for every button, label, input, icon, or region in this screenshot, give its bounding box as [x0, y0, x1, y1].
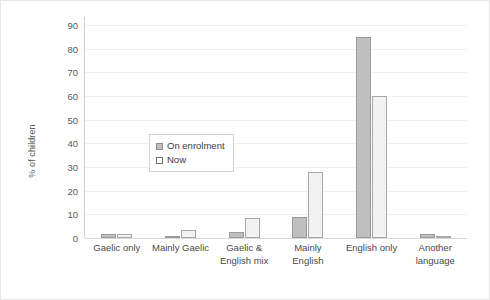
x-axis-tick-label: Gaelic &English mix [212, 242, 276, 267]
y-axis-tick-label: 30 [67, 162, 78, 173]
bar [229, 232, 244, 238]
bar [356, 37, 371, 238]
legend-swatch-icon [156, 143, 163, 150]
bar-group [340, 25, 404, 238]
y-axis-title: % of children [23, 1, 41, 300]
bar [117, 234, 132, 238]
bar [420, 234, 435, 238]
y-axis-tick-label: 80 [67, 43, 78, 54]
bar-chart-figure: % of children 0102030405060708090 Gaelic… [0, 0, 490, 300]
y-axis-title-text: % of children [27, 124, 37, 177]
bars-layer [85, 25, 467, 238]
legend-label: Now [167, 153, 186, 167]
plot-area: 0102030405060708090 [85, 25, 467, 238]
bar-group [276, 25, 340, 238]
x-axis-tick-label: Anotherlanguage [403, 242, 467, 267]
y-axis-tick-label: 10 [67, 209, 78, 220]
bar [436, 236, 451, 238]
bar [292, 217, 307, 238]
bar [165, 236, 180, 238]
x-axis-tick-label: MainlyEnglish [276, 242, 340, 267]
legend-label: On enrolment [167, 139, 225, 153]
x-axis-tick-label: Gaelic only [85, 242, 149, 267]
bar [101, 234, 116, 238]
x-axis-labels: Gaelic onlyMainly GaelicGaelic &English … [85, 242, 467, 267]
chart-legend: On enrolmentNow [149, 134, 234, 172]
gridline [85, 238, 467, 239]
bar [372, 96, 387, 238]
x-axis-tick-label: English only [340, 242, 404, 267]
y-axis-tick-label: 50 [67, 114, 78, 125]
x-axis-tick-label: Mainly Gaelic [149, 242, 213, 267]
y-axis-tick-label: 20 [67, 185, 78, 196]
y-axis-tick-label: 0 [73, 233, 78, 244]
legend-entry: Now [156, 153, 225, 167]
legend-swatch-icon [156, 157, 163, 164]
y-axis-tick-label: 40 [67, 138, 78, 149]
bar-group [149, 25, 213, 238]
bar-group [403, 25, 467, 238]
bar-group [85, 25, 149, 238]
bar [245, 218, 260, 238]
bar-group [212, 25, 276, 238]
legend-entry: On enrolment [156, 139, 225, 153]
y-axis-tick-label: 90 [67, 20, 78, 31]
y-axis-tick-label: 60 [67, 91, 78, 102]
y-axis-tick-label: 70 [67, 67, 78, 78]
bar [181, 230, 196, 238]
bar [308, 172, 323, 238]
